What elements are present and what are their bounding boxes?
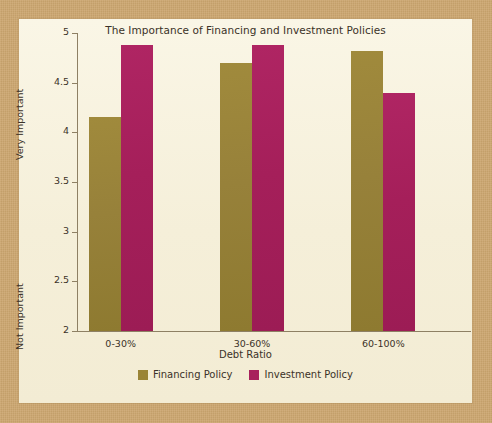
bar-0-30-financing-policy	[89, 117, 121, 331]
chart-panel: The Importance of Financing and Investme…	[19, 19, 472, 403]
x-axis-tick-label: 60-100%	[362, 338, 405, 349]
y-axis-label-not-important: Not Important	[14, 283, 25, 350]
y-axis-tick-label: 3.5	[54, 175, 69, 186]
y-axis-tick: 2	[72, 331, 77, 332]
x-axis-tick-label: 0-30%	[105, 338, 136, 349]
y-axis-tick: 3.5	[72, 182, 77, 183]
chart-legend: Financing PolicyInvestment Policy	[19, 369, 472, 380]
bar-60-100-investment-policy	[383, 93, 415, 331]
y-axis-tick: 4	[72, 132, 77, 133]
legend-swatch-icon	[138, 370, 148, 380]
y-axis-tick-label: 2.5	[54, 274, 69, 285]
bar-0-30-investment-policy	[121, 45, 153, 331]
bar-30-60-investment-policy	[252, 45, 284, 331]
y-axis-tick-label: 5	[63, 26, 69, 37]
legend-item-financing-policy[interactable]: Financing Policy	[138, 369, 233, 380]
y-axis-tick-label: 3	[63, 225, 69, 236]
plot-area: 54.543.532.52 0-30%30-60%60-100%	[77, 33, 471, 331]
legend-item-investment-policy[interactable]: Investment Policy	[249, 369, 353, 380]
y-axis-tick: 4.5	[72, 83, 77, 84]
y-axis-tick: 2.5	[72, 281, 77, 282]
y-axis-label-very-important: Very Important	[14, 89, 25, 160]
x-axis-tick-label: 30-60%	[234, 338, 271, 349]
figure-frame: The Importance of Financing and Investme…	[0, 0, 492, 423]
x-axis-title: Debt Ratio	[19, 349, 472, 360]
y-axis-tick-label: 4	[63, 125, 69, 136]
y-axis-tick: 3	[72, 232, 77, 233]
y-axis-tick: 5	[72, 33, 77, 34]
y-axis-tick-label: 4.5	[54, 76, 69, 87]
y-axis-line	[77, 33, 78, 332]
legend-swatch-icon	[249, 370, 259, 380]
y-axis-tick-label: 2	[63, 324, 69, 335]
legend-label: Investment Policy	[264, 369, 353, 380]
bar-60-100-financing-policy	[351, 51, 383, 331]
bar-30-60-financing-policy	[220, 63, 252, 331]
x-axis-line	[77, 331, 471, 332]
legend-label: Financing Policy	[153, 369, 233, 380]
